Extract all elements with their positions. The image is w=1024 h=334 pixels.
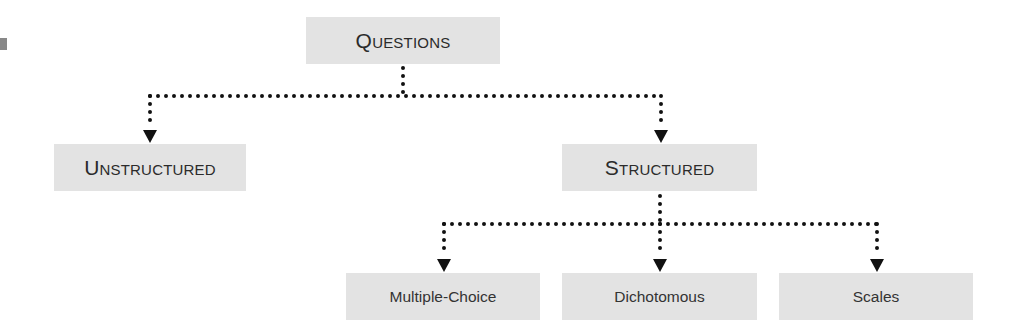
arrow-head-icon <box>654 130 668 143</box>
arrow-head-icon <box>143 130 157 143</box>
node-multiple-choice: Multiple-Choice <box>346 273 540 320</box>
arrow-head-icon <box>437 259 451 272</box>
question-types-diagram: Questions Unstructured Structured Multip… <box>0 0 1024 334</box>
arrow-head-icon <box>870 259 884 272</box>
node-structured: Structured <box>562 144 757 191</box>
node-scales: Scales <box>779 273 973 320</box>
node-unstructured: Unstructured <box>54 144 246 191</box>
arrow-head-icon <box>653 259 667 272</box>
node-questions: Questions <box>306 17 500 64</box>
node-dichotomous: Dichotomous <box>562 273 757 320</box>
